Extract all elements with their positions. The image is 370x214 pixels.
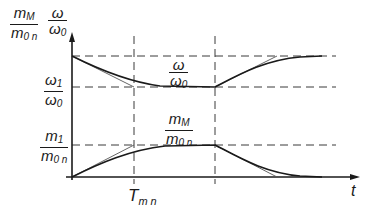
torque-curve: [72, 145, 322, 177]
label-den: ω: [170, 72, 182, 89]
m1-level-label: m1 m0 n: [40, 128, 68, 167]
y-axis-label-torque: mM m0 n: [10, 5, 38, 44]
speed-curve-label: ω ω0: [169, 57, 188, 92]
label-num: ω: [52, 4, 64, 21]
label-den-sub: 0 n: [179, 137, 193, 148]
label-num: m: [45, 127, 58, 144]
label-sub: m n: [138, 195, 156, 207]
label-den-sub: 0: [61, 27, 67, 38]
label-num: m: [14, 4, 27, 21]
speed-curve: [72, 56, 322, 87]
label-num: ω: [45, 71, 57, 88]
label-den-sub: 0 n: [24, 31, 38, 42]
omega1-level-label: ω1 ω0: [44, 72, 63, 111]
label-main: T: [128, 186, 138, 205]
label-num-sub: M: [26, 11, 34, 22]
label-den: m: [41, 147, 54, 164]
label-num: m: [169, 110, 182, 127]
label-den-sub: 0: [182, 79, 188, 90]
label-num: ω: [173, 56, 185, 73]
torque-curve-label: mM m0 n: [165, 111, 193, 150]
t-mn-label: Tm n: [128, 187, 157, 207]
label-den-sub: 0 n: [54, 154, 68, 165]
y-axis-arrow-icon: [69, 32, 75, 42]
label-den: m: [166, 130, 179, 147]
x-axis-arrow-icon: [350, 174, 360, 180]
label-num-sub: 1: [58, 134, 64, 145]
x-axis-label: t: [351, 183, 355, 199]
y-axis-label-speed: ω ω0: [48, 5, 67, 40]
label-num-sub: 1: [57, 78, 63, 89]
label-den: m: [11, 24, 24, 41]
label-num-sub: M: [181, 117, 189, 128]
label-den: ω: [45, 91, 57, 108]
label-den: ω: [49, 20, 61, 37]
label-den-sub: 0: [57, 98, 63, 109]
